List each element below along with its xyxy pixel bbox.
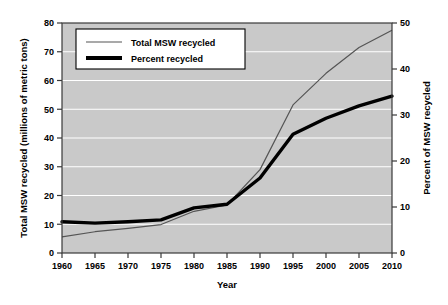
left-tick-label-70: 70 [44,47,54,57]
left-axis: 01020304050607080 [44,18,62,258]
left-tick-label-10: 10 [44,220,54,230]
chart-figure: 01020304050607080 01020304050 1960196519… [0,0,448,305]
x-tick-label-1995: 1995 [283,261,303,271]
left-tick-label-60: 60 [44,76,54,86]
left-tick-label-80: 80 [44,18,54,28]
left-tick-label-30: 30 [44,162,54,172]
left-tick-label-20: 20 [44,191,54,201]
right-tick-label-40: 40 [400,64,410,74]
x-tick-label-2005: 2005 [349,261,369,271]
bottom-axis: 1960196519701975198019851990199520002005… [52,253,402,271]
dual-axis-line-chart: 01020304050607080 01020304050 1960196519… [0,0,448,305]
left-axis-title: Total MSW recycled (millions of metric t… [18,38,29,237]
x-tick-label-1980: 1980 [184,261,204,271]
chart-legend: Total MSW recycled Percent recycled [76,29,245,69]
right-tick-label-0: 0 [400,248,405,258]
x-tick-label-2010: 2010 [382,261,402,271]
x-tick-label-1965: 1965 [85,261,105,271]
x-tick-label-1975: 1975 [151,261,171,271]
right-axis-title: Percent of MSW recycled [421,81,432,195]
right-tick-label-10: 10 [400,202,410,212]
right-tick-label-30: 30 [400,110,410,120]
left-tick-label-40: 40 [44,133,54,143]
left-tick-label-50: 50 [44,105,54,115]
x-tick-label-1960: 1960 [52,261,72,271]
legend-label-percent-recycled: Percent recycled [131,54,203,64]
x-tick-label-1990: 1990 [250,261,270,271]
left-tick-label-0: 0 [49,248,54,258]
x-tick-label-1985: 1985 [217,261,237,271]
legend-label-total-msw-recycled: Total MSW recycled [131,38,215,48]
x-tick-label-2000: 2000 [316,261,336,271]
x-tick-label-1970: 1970 [118,261,138,271]
x-axis-title: Year [217,279,237,290]
right-tick-label-50: 50 [400,18,410,28]
right-tick-label-20: 20 [400,156,410,166]
right-axis: 01020304050 [392,18,410,258]
